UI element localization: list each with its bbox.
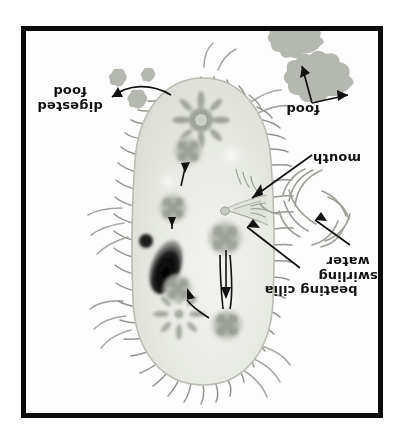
picture-frame: beating cilia swirling water mouth food … bbox=[21, 26, 383, 418]
food-vacuole-1 bbox=[210, 308, 244, 342]
micronucleus bbox=[139, 234, 153, 248]
food-particles bbox=[268, 31, 354, 102]
anal-pore-center bbox=[195, 114, 207, 126]
label-mouth: mouth bbox=[306, 150, 368, 165]
label-digested-food: digested food bbox=[30, 84, 110, 113]
food-vacuole-3 bbox=[206, 219, 244, 257]
illustration-canvas: beating cilia swirling water mouth food … bbox=[0, 0, 404, 439]
label-beating-cilia: beating cilia bbox=[252, 282, 370, 297]
food-vacuole-2 bbox=[162, 273, 194, 305]
label-swirling-water: swirling water bbox=[306, 254, 378, 283]
rotated-illustration: beating cilia swirling water mouth food … bbox=[26, 31, 378, 413]
food-vacuole-5 bbox=[172, 135, 204, 167]
label-food: food bbox=[280, 101, 326, 116]
frame-inner-mat: beating cilia swirling water mouth food … bbox=[26, 31, 378, 413]
